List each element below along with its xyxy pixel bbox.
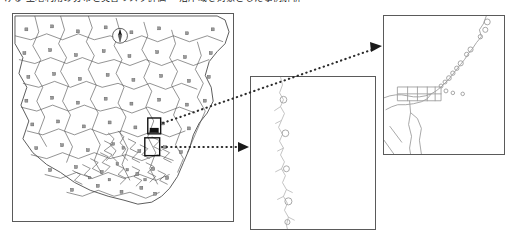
mid-site-markers [280,96,292,224]
overview-municipal-markers [23,25,214,195]
regional-overview-map [12,13,234,222]
coastline-intermediate-map [250,76,376,230]
detail-map-graphic [384,16,504,154]
detail-site-markers [439,19,490,96]
inset-highlight-fill [150,128,159,133]
figure-caption-top: ける 土地利用の分布と災害リスク評価 ―沿岸域を対象とした事例解析― [4,0,512,4]
coastal-site-detail-map [383,15,505,155]
overview-map-graphic [13,14,233,221]
north-arrow-icon [113,28,128,43]
figure-root: ける 土地利用の分布と災害リスク評価 ―沿岸域を対象とした事例解析― [0,0,516,247]
mid-map-graphic [251,77,375,229]
